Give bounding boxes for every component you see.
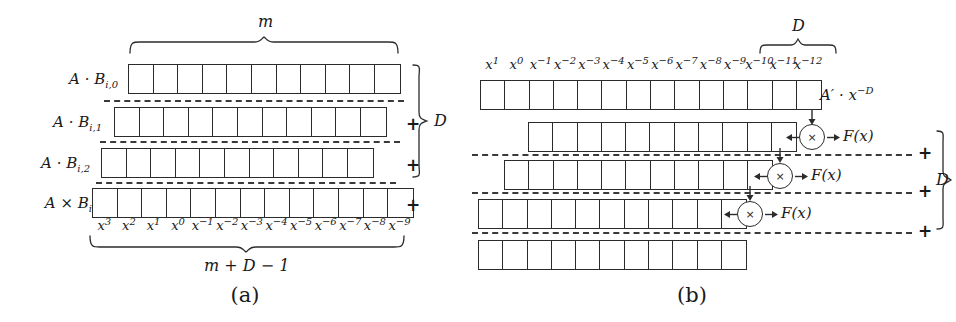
cell [552, 200, 576, 228]
arrow-left-b-0 [786, 133, 800, 142]
row-label-a-2-base: A · B [41, 154, 77, 172]
cell [649, 241, 673, 269]
cell-row-b-2 [504, 160, 773, 190]
cell [699, 123, 723, 151]
cell [576, 200, 600, 228]
cell [625, 200, 649, 228]
cell [698, 200, 722, 228]
cell [203, 65, 228, 93]
row-label-a-1-base: A · B [53, 113, 89, 131]
cell [748, 81, 772, 109]
arrow-left-b-1 [754, 172, 768, 181]
cell [479, 241, 503, 269]
row-label-a-3: A × Bi [0, 196, 92, 211]
cell [503, 241, 527, 269]
cell [675, 123, 699, 151]
exponent-base: x [147, 218, 154, 233]
fx-label-b-0: F(x) [843, 129, 874, 144]
row-label-a-2: A · Bi,2 [0, 156, 90, 171]
cell [673, 200, 697, 228]
cell [578, 161, 602, 189]
cell [238, 108, 263, 136]
cell [154, 65, 179, 93]
cell [578, 81, 602, 109]
cell [700, 81, 724, 109]
exponent-base: x [510, 57, 517, 72]
exponent-base: x [97, 218, 104, 233]
brace-m [128, 36, 400, 54]
divider-b-1 [472, 192, 912, 194]
cell [323, 149, 348, 177]
cell [554, 81, 578, 109]
cell [151, 149, 176, 177]
cell [649, 200, 673, 228]
cell [600, 241, 624, 269]
brace-label-d-a: D [434, 113, 447, 129]
exponent-base: x [651, 57, 658, 72]
cell [529, 161, 553, 189]
cell [552, 241, 576, 269]
divider-a-0 [104, 100, 404, 102]
cell [602, 123, 626, 151]
cell [698, 241, 722, 269]
cell [290, 189, 315, 217]
cell [651, 161, 675, 189]
exponent-power: 1 [493, 55, 499, 66]
exponent-base: x [676, 57, 683, 72]
arrow-right-in-b-1 [794, 172, 808, 181]
multiplier-circle-b-2: × [737, 201, 763, 227]
multiplier-symbol-b-2: × [745, 208, 754, 221]
cell [626, 123, 650, 151]
exponent-power: 2 [129, 216, 135, 227]
cell [627, 81, 651, 109]
cell-row-a-3 [92, 188, 414, 218]
divider-a-2 [96, 182, 396, 184]
brace-mdminus1 [88, 234, 406, 254]
cell [326, 65, 351, 93]
cell-row-b-1 [528, 122, 797, 152]
cell [102, 149, 127, 177]
cell [115, 108, 140, 136]
cell [225, 149, 250, 177]
cell-row-b-4 [478, 240, 747, 270]
cell [723, 123, 747, 151]
row-label-a-0-base: A · B [69, 70, 105, 88]
cell [274, 149, 299, 177]
cell [530, 81, 554, 109]
cell [505, 81, 529, 109]
multiplier-symbol-b-1: × [775, 170, 784, 183]
cell [748, 123, 772, 151]
row-label-a-2-sub: i,2 [77, 163, 90, 174]
arrow-down-b-1 [774, 148, 786, 164]
cell [375, 65, 400, 93]
cell [675, 161, 699, 189]
row-label-a-0-sub: i,0 [105, 79, 118, 90]
cell [699, 161, 723, 189]
exponent-label-a-12: x−9 [385, 219, 415, 232]
divider-b-2 [472, 232, 912, 234]
multiplier-circle-b-1: × [767, 163, 793, 189]
plus-sign-a-2: + [406, 197, 420, 214]
cell [673, 241, 697, 269]
plus-sign-b-2: + [918, 223, 932, 240]
cell [189, 108, 214, 136]
cell [626, 161, 650, 189]
exponent-power: 3 [105, 216, 111, 227]
row-label-a-0: A · Bi,0 [10, 72, 118, 87]
brace-label-m: m [258, 14, 273, 30]
cell-row-a-0 [128, 64, 401, 94]
caption-a: (a) [185, 283, 305, 307]
exponent-base: x [315, 218, 322, 233]
cell [265, 189, 290, 217]
exponent-power: −12 [801, 55, 822, 66]
brace-label-d-side-b: D [936, 172, 949, 188]
exponent-base: x [388, 218, 395, 233]
cell [528, 241, 552, 269]
exponent-base: x [339, 218, 346, 233]
cell [191, 189, 216, 217]
multiplier-symbol-b-0: × [807, 131, 816, 144]
cell [314, 189, 339, 217]
brace-d-a [410, 64, 432, 178]
arrow-left-b-2 [724, 210, 738, 219]
plus-sign-b-0: + [918, 145, 932, 162]
